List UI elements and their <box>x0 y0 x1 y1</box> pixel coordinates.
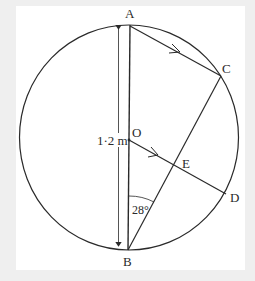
chord-ac <box>130 26 221 76</box>
label-e: E <box>182 156 190 171</box>
diameter-ab <box>128 25 130 250</box>
center-point <box>128 139 131 142</box>
radius-od <box>129 140 226 194</box>
label-c: C <box>222 61 231 76</box>
circle-diagram: A B C D E O 1·2 m 28° <box>0 0 255 281</box>
label-d: D <box>230 190 239 205</box>
angle-arc <box>129 196 154 202</box>
label-o: O <box>132 125 141 140</box>
diameter-label: 1·2 m <box>97 133 128 148</box>
label-a: A <box>125 6 135 21</box>
label-b: B <box>123 254 132 269</box>
chord-bc <box>128 76 221 250</box>
angle-label: 28° <box>132 203 149 217</box>
